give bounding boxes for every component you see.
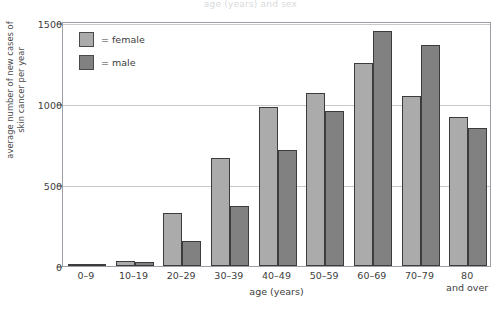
bar-male-0-9 [87, 264, 106, 266]
bar-female-20-29 [163, 213, 182, 266]
bar-male-70-79 [421, 45, 440, 266]
legend: = female = male [79, 29, 145, 75]
bar-male-50-59 [325, 111, 344, 266]
bar-male-60-69 [373, 31, 392, 266]
y-axis: 050010001500 [14, 22, 62, 267]
bar-female-60-69 [354, 63, 373, 266]
x-tick-label-text: 0–9 [77, 270, 94, 282]
legend-item-male: = male [79, 52, 145, 72]
legend-label-female: = female [101, 34, 145, 45]
x-tick-label-text: 60–69 [357, 270, 386, 282]
gridline-1500 [63, 24, 490, 25]
y-tick-label-1500: 1500 [22, 19, 62, 30]
clipped-caption-strip: age (years) and sex [0, 0, 501, 9]
bar-female-10-19 [116, 261, 135, 266]
x-tick-label-text: 70–79 [405, 270, 434, 282]
bar-male-10-19 [135, 262, 154, 266]
x-tick-label-text: 50–59 [310, 270, 339, 282]
bar-male-20-29 [182, 241, 201, 266]
x-tick-label-60-69: 60–69 [357, 270, 386, 282]
plot-area: = female = male [62, 22, 491, 267]
bar-female-30-39 [211, 158, 230, 266]
x-tick-label-text: 30–39 [214, 270, 243, 282]
x-tick-label-40-49: 40–49 [262, 270, 291, 282]
bar-female-50-59 [306, 93, 325, 266]
legend-item-female: = female [79, 29, 145, 49]
x-tick-label-text: 40–49 [262, 270, 291, 282]
legend-swatch-male-icon [79, 55, 94, 70]
x-tick-label-10-19: 10–19 [119, 270, 148, 282]
y-tick-label-500: 500 [22, 181, 62, 192]
x-tick-label-20-29: 20–29 [167, 270, 196, 282]
legend-swatch-female-icon [79, 32, 94, 47]
bar-male-40-49 [278, 150, 297, 266]
legend-label-male: = male [101, 57, 136, 68]
x-tick-label-text: 80 [446, 270, 488, 282]
bar-male-30-39 [230, 206, 249, 266]
bar-female-70-79 [402, 96, 421, 266]
x-tick-label-0-9: 0–9 [77, 270, 94, 282]
bar-female-40-49 [259, 107, 278, 266]
x-tick-label-70-79: 70–79 [405, 270, 434, 282]
x-tick-label-50-59: 50–59 [310, 270, 339, 282]
bar-male-80-and-over [468, 128, 487, 266]
x-axis-title: age (years) [62, 286, 491, 297]
bar-female-0-9 [68, 264, 87, 266]
x-tick-label-text: 10–19 [119, 270, 148, 282]
x-tick-label-text: 20–29 [167, 270, 196, 282]
y-tick-label-1000: 1000 [22, 100, 62, 111]
y-tick-label-0: 0 [22, 262, 62, 273]
bar-female-80-and-over [449, 117, 468, 266]
x-tick-label-30-39: 30–39 [214, 270, 243, 282]
skin-cancer-bar-chart-figure: age (years) and sex average number of ne… [0, 0, 501, 310]
